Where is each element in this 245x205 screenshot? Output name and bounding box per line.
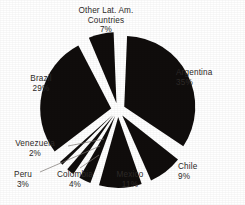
slice-label-other-value: 7% [54, 25, 158, 35]
slice-label-other-lat-am-countries: Other Lat. Am. Countries 7% [54, 6, 158, 35]
slice-label-venezuela-value: 2% [4, 149, 66, 159]
slice-label-chile-value: 9% [178, 172, 214, 182]
slice-label-mexico: Mexico 11% [106, 170, 154, 189]
slice-label-peru: Peru 3% [6, 170, 40, 189]
slice-label-colombia-value: 4% [48, 180, 102, 190]
slice-label-venezuela-name: Venezuela [4, 139, 66, 149]
pie-chart: Other Lat. Am. Countries 7% Argentina 35… [0, 0, 245, 205]
slice-label-argentina-value: 35% [176, 78, 242, 88]
slice-label-brazil-name: Brazil [12, 74, 70, 84]
slice-label-brazil-value: 29% [12, 84, 70, 94]
slice-label-peru-value: 3% [6, 180, 40, 190]
slice-label-chile: Chile 9% [178, 162, 214, 181]
slice-label-colombia: Colombia 4% [48, 170, 102, 189]
slice-label-chile-name: Chile [178, 162, 214, 172]
pie-slices-group [40, 32, 195, 188]
slice-label-other-name-line2: Countries [54, 16, 158, 26]
slice-label-mexico-name: Mexico [106, 170, 154, 180]
slice-label-peru-name: Peru [6, 170, 40, 180]
slice-label-other-name-line1: Other Lat. Am. [54, 6, 158, 16]
slice-label-argentina: Argentina 35% [176, 68, 242, 87]
slice-label-argentina-name: Argentina [176, 68, 242, 78]
slice-label-colombia-name: Colombia [48, 170, 102, 180]
slice-label-venezuela: Venezuela 2% [4, 139, 66, 158]
slice-label-mexico-value: 11% [106, 180, 154, 190]
slice-label-brazil: Brazil 29% [12, 74, 70, 93]
